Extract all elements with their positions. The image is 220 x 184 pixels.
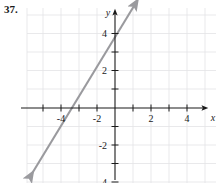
graph-line xyxy=(31,4,136,176)
problem-number: 37. xyxy=(4,4,18,15)
x-axis-label: x xyxy=(210,112,216,123)
plot-area: -4 -2 2 4 4 2 -2 -4 x y xyxy=(27,8,216,183)
xtick-label-2: 2 xyxy=(149,113,154,124)
xtick-label-neg4: -4 xyxy=(57,113,65,124)
horizontal-gridlines xyxy=(27,15,216,182)
y-axis-label: y xyxy=(105,7,111,18)
graph-figure: 37. xyxy=(0,0,220,183)
ytick-label-neg2: -2 xyxy=(99,140,107,151)
ytick-label-4: 4 xyxy=(102,28,107,39)
ytick-label-2: 2 xyxy=(102,65,107,76)
coordinate-plane-svg: -4 -2 2 4 4 2 -2 -4 x y xyxy=(27,8,216,183)
xtick-label-4: 4 xyxy=(185,113,190,124)
ytick-label-neg4: -4 xyxy=(99,177,107,184)
xtick-label-neg2: -2 xyxy=(93,113,101,124)
